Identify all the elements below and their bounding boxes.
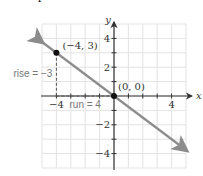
y-tick-label: 2 (104, 62, 110, 73)
data-point (53, 50, 59, 56)
y-tick-label: −4 (95, 148, 110, 159)
problem-number: 4 (36, 0, 42, 4)
y-tick-label: 4 (104, 33, 110, 44)
x-tick-label: 4 (168, 99, 174, 110)
data-point (111, 93, 117, 99)
run-annotation: run = 4 (69, 99, 101, 110)
rise-annotation: rise = −3 (13, 68, 52, 79)
x-tick-label: −4 (49, 99, 64, 110)
y-tick-label: −2 (95, 119, 110, 130)
x-axis-label: x (196, 90, 202, 101)
point-label: (0, 0) (118, 81, 145, 92)
coordinate-plane: −4442−2−4xy(−4, 3)(0, 0)rise = −3run = 4 (0, 0, 203, 176)
y-axis-label: y (104, 14, 111, 25)
point-label: (−4, 3) (62, 40, 97, 51)
